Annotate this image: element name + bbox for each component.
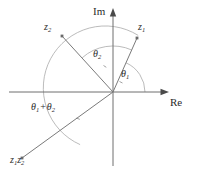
vector-z1z2-label: z1z2 — [10, 155, 24, 165]
angle-theta-sum-subscript2: 2 — [52, 106, 55, 113]
imaginary-axis-arrow-icon — [110, 8, 116, 17]
angle-theta-sum-base2: θ — [47, 101, 52, 112]
angle-theta-sum-subscript1: 1 — [36, 106, 39, 113]
theta1-arc-start-tick — [120, 82, 123, 84]
imaginary-axis-label: Im — [93, 6, 105, 17]
angle-theta1-label-subscript: 1 — [126, 73, 129, 80]
vector-z1-label-subscript: 1 — [142, 26, 145, 33]
vector-z1-label: z1 — [138, 22, 145, 32]
argand-diagram-canvas — [0, 0, 197, 173]
vector-z2-endpoint — [61, 35, 64, 38]
real-axis-arrow-icon — [161, 89, 170, 95]
angle-theta-sum-label: θ1+θ2 — [31, 102, 55, 112]
vector-z1z2-label-subscript1: 1 — [14, 159, 17, 166]
argand-diagram-figure: Im Re z1 z2 z1z2 θ1 θ2 θ1+θ2 — [0, 0, 197, 173]
theta2-arc — [82, 46, 132, 58]
angle-theta1-label: θ1 — [121, 69, 129, 79]
theta1-plus-theta2-arc — [43, 26, 138, 145]
angle-theta-sum-plus: + — [39, 101, 47, 112]
real-axis-label: Re — [170, 97, 182, 108]
vector-z2-line — [62, 36, 113, 92]
vector-z2-label-subscript: 2 — [48, 26, 51, 33]
angle-theta2-label-subscript: 2 — [98, 53, 101, 60]
vector-z1-endpoint — [136, 37, 139, 40]
angle-theta2-label: θ2 — [93, 49, 101, 59]
vector-z2-label: z2 — [44, 22, 51, 32]
theta2-arc-start-tick — [104, 66, 107, 68]
vector-z1z2-label-subscript2: 2 — [21, 159, 24, 166]
